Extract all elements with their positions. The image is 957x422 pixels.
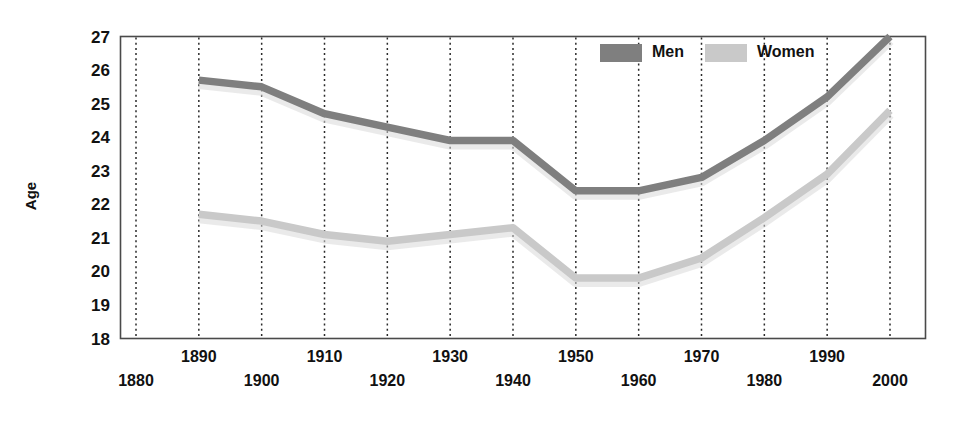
y-tick-24: 24 bbox=[91, 128, 110, 147]
x-tick-1880: 1880 bbox=[118, 372, 154, 389]
x-tick-1950: 1950 bbox=[558, 348, 594, 365]
y-tick-25: 25 bbox=[91, 95, 110, 114]
y-tick-21: 21 bbox=[91, 229, 110, 248]
legend-label-women: Women bbox=[757, 43, 814, 60]
y-tick-20: 20 bbox=[91, 262, 110, 281]
x-tick-1900: 1900 bbox=[244, 372, 280, 389]
x-tick-1980: 1980 bbox=[747, 372, 783, 389]
y-tick-27: 27 bbox=[91, 28, 110, 47]
x-tick-1990: 1990 bbox=[809, 348, 845, 365]
y-tick-19: 19 bbox=[91, 296, 110, 315]
x-tick-1890: 1890 bbox=[181, 348, 217, 365]
x-tick-1960: 1960 bbox=[621, 372, 657, 389]
x-tick-1970: 1970 bbox=[684, 348, 720, 365]
x-tick-1940: 1940 bbox=[495, 372, 531, 389]
legend-swatch-men bbox=[600, 44, 642, 62]
chart-legend: MenWomen bbox=[600, 43, 814, 62]
x-tick-1910: 1910 bbox=[307, 348, 343, 365]
chart-container: Age 18192021222324252627 188018901900191… bbox=[0, 0, 957, 422]
legend-swatch-women bbox=[705, 44, 747, 62]
legend-label-men: Men bbox=[652, 43, 684, 60]
x-tick-1930: 1930 bbox=[432, 348, 468, 365]
line-chart: Age 18192021222324252627 188018901900191… bbox=[0, 0, 957, 422]
y-axis-title: Age bbox=[22, 182, 39, 210]
x-tick-2000: 2000 bbox=[872, 372, 908, 389]
x-tick-1920: 1920 bbox=[370, 372, 406, 389]
y-tick-18: 18 bbox=[91, 330, 110, 349]
y-tick-23: 23 bbox=[91, 162, 110, 181]
y-tick-26: 26 bbox=[91, 61, 110, 80]
y-tick-22: 22 bbox=[91, 195, 110, 214]
